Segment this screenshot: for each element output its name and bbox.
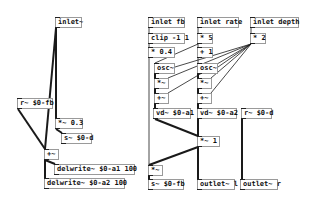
pd-object-r-fb[interactable]: r~ $0-fb (17, 98, 53, 109)
pd-object-add-left[interactable]: +~ (44, 149, 59, 160)
pd-object-add-b[interactable]: +~ (197, 93, 212, 104)
signal-cord[interactable] (155, 119, 198, 136)
pd-object-inlet-sig[interactable]: inlet~ (55, 17, 82, 28)
pd-object-mul-b[interactable]: *~ (197, 78, 212, 89)
pd-object-s-d[interactable]: s~ $0-d (61, 133, 92, 144)
pd-object-inlet-depth[interactable]: inlet depth (250, 17, 299, 28)
pd-object-r-d[interactable]: r~ $0-d (241, 108, 272, 119)
pd-object-mul-fb[interactable]: *~ (148, 165, 163, 176)
pd-object-add-a[interactable]: +~ (154, 93, 169, 104)
pd-object-vd-a1[interactable]: vd~ $0-a1 (153, 108, 191, 119)
pd-object-mul-03[interactable]: *~ 0.3 (55, 118, 83, 129)
pd-object-delwrite-a1[interactable]: delwrite~ $0-a1 100 (54, 164, 135, 175)
pd-object-osc-a[interactable]: osc~ (154, 63, 175, 74)
signal-cord[interactable] (18, 109, 45, 149)
pd-object-outlet-r[interactable]: outlet~ r (240, 179, 278, 190)
pd-object-mul-5[interactable]: * 5 (197, 33, 213, 44)
pd-object-s-fb[interactable]: s~ $0-fb (148, 179, 184, 190)
pd-object-add-1[interactable]: + 1 (197, 47, 213, 58)
pd-object-vd-a2[interactable]: vd~ $0-a2 (197, 108, 237, 119)
pd-object-mul-a[interactable]: *~ (154, 78, 169, 89)
pd-object-mul-1[interactable]: *~ 1 (197, 136, 220, 147)
pd-object-delwrite-a2[interactable]: delwrite~ $0-a2 100 (44, 178, 125, 189)
signal-cord[interactable] (45, 28, 56, 149)
pd-object-mul-04[interactable]: * 0.4 (148, 47, 175, 58)
pd-object-inlet-rate[interactable]: inlet rate (197, 17, 239, 28)
pd-object-clip[interactable]: clip -1 1 (148, 33, 185, 44)
pd-object-osc-b[interactable]: osc~ (197, 63, 218, 74)
pd-object-outlet-l[interactable]: outlet~ l (197, 179, 235, 190)
pd-object-mul-2[interactable]: * 2 (250, 33, 266, 44)
pd-object-inlet-fb[interactable]: inlet fb (148, 17, 185, 28)
pd-patch-canvas[interactable]: inlet~r~ $0-fb*~ 0.3s~ $0-d+~delwrite~ $… (0, 0, 314, 205)
signal-cord[interactable] (149, 147, 198, 165)
